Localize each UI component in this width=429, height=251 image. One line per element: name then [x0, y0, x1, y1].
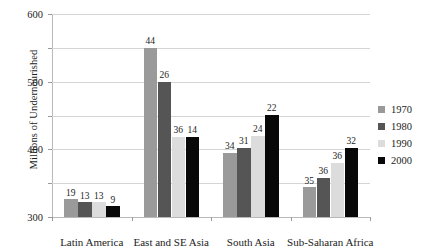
legend-swatch-icon [378, 106, 385, 113]
bar-group: 35363632 [303, 14, 359, 217]
y-axis-tick: 200 [48, 149, 52, 150]
legend-swatch-icon [378, 123, 385, 130]
bar[interactable]: 26 [158, 82, 172, 217]
x-axis-tick [211, 217, 212, 221]
bar-value-label: 35 [305, 177, 315, 187]
bar[interactable]: 13 [78, 202, 92, 217]
y-axis-tick: 400 [48, 82, 52, 83]
y-axis-tick-label: 300 [27, 212, 43, 223]
bar[interactable]: 24 [251, 136, 265, 217]
bar-group: 44263614 [144, 14, 200, 217]
x-axis-tick [132, 217, 133, 221]
legend-swatch-icon [378, 157, 385, 164]
bar-value-label: 13 [94, 192, 104, 202]
legend-label: 1970 [391, 104, 412, 115]
bar[interactable]: 13 [92, 202, 106, 217]
undernourishment-bar-chart: Millions of Undernourished 0100200300400… [0, 0, 429, 251]
y-axis-title: Millions of Undernourished [28, 15, 39, 205]
y-axis-tick: 500 [48, 48, 52, 49]
x-axis-tick [52, 217, 53, 221]
bar-value-label: 36 [319, 167, 329, 177]
bar-value-label: 26 [160, 71, 170, 81]
bar-value-label: 36 [174, 126, 184, 136]
bar[interactable]: 22 [265, 115, 279, 217]
bar-value-label: 31 [239, 137, 249, 147]
bar-value-label: 19 [66, 189, 76, 199]
y-axis-tick-label: 500 [27, 76, 43, 87]
x-axis-category-label: Latin America [60, 236, 123, 248]
y-axis-tick-label: 600 [27, 9, 43, 20]
bar-value-label: 22 [267, 104, 277, 114]
bar[interactable]: 36 [317, 178, 331, 217]
legend-item[interactable]: 2000 [378, 152, 412, 169]
bar-value-label: 36 [333, 152, 343, 162]
legend-label: 1980 [391, 121, 412, 132]
bar[interactable]: 36 [172, 137, 186, 217]
bar-group: 34312422 [223, 14, 279, 217]
bar-value-label: 24 [253, 125, 263, 135]
bar[interactable]: 19 [64, 199, 78, 217]
bar-value-label: 32 [347, 137, 357, 147]
bar-value-label: 44 [146, 37, 156, 47]
x-axis-category-label: East and SE Asia [134, 236, 209, 248]
x-axis-tick [291, 217, 292, 221]
x-axis-category-label: South Asia [227, 236, 275, 248]
plot-area: 01002003004005006001913139Latin America4… [52, 14, 370, 217]
bar-value-label: 9 [110, 196, 115, 206]
bar-value-label: 14 [188, 126, 198, 136]
bar[interactable]: 14 [186, 137, 200, 217]
bar[interactable]: 35 [303, 187, 317, 217]
x-axis-category-label: Sub-Saharan Africa [287, 236, 373, 248]
y-axis-tick: 100 [48, 183, 52, 184]
y-axis-tick: 300 [48, 116, 52, 117]
bar-group: 1913139 [64, 14, 120, 217]
bar[interactable]: 34 [223, 153, 237, 217]
legend-label: 1990 [391, 138, 412, 149]
legend-swatch-icon [378, 140, 385, 147]
y-axis-tick: 600 [48, 14, 52, 15]
y-axis-tick-label: 400 [27, 144, 43, 155]
bar[interactable]: 32 [345, 148, 359, 217]
chart-legend: 1970198019902000 [378, 101, 412, 169]
legend-item[interactable]: 1970 [378, 101, 412, 118]
bar[interactable]: 44 [144, 48, 158, 217]
bar[interactable]: 31 [237, 148, 251, 217]
legend-item[interactable]: 1990 [378, 135, 412, 152]
x-axis-tick [370, 217, 371, 221]
bar-value-label: 13 [80, 192, 90, 202]
bar-value-label: 34 [225, 142, 235, 152]
bar[interactable]: 36 [331, 163, 345, 217]
bar[interactable]: 9 [106, 206, 120, 217]
legend-item[interactable]: 1980 [378, 118, 412, 135]
legend-label: 2000 [391, 155, 412, 166]
